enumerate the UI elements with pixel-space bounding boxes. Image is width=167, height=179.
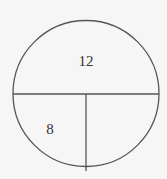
bottom-left-label: 8	[46, 121, 54, 137]
top-half-label: 12	[79, 53, 94, 69]
circle-diagram: 12 8	[0, 0, 167, 179]
